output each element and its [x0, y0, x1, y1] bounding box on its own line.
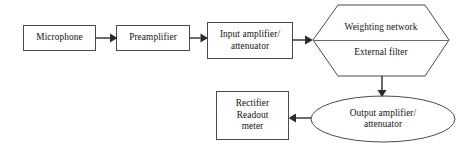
diagram-canvas: [0, 0, 470, 150]
connector-filter-to-output-amplifier: [378, 76, 387, 97]
connector-preamplifier-to-input-amplifier: [190, 34, 209, 43]
connector-microphone-to-preamplifier: [96, 34, 118, 43]
rectifier-box[interactable]: [217, 92, 289, 140]
connector-output-amplifier-to-rectifier: [289, 114, 312, 123]
preamplifier-box[interactable]: [117, 26, 190, 51]
connector-input-amplifier-to-filter: [293, 36, 314, 45]
block-diagram: Microphone Preamplifier Input amplifier/…: [0, 0, 470, 150]
output-amplifier-ellipse[interactable]: [311, 96, 455, 142]
microphone-box[interactable]: [24, 26, 96, 51]
input-amplifier-box[interactable]: [208, 23, 293, 59]
